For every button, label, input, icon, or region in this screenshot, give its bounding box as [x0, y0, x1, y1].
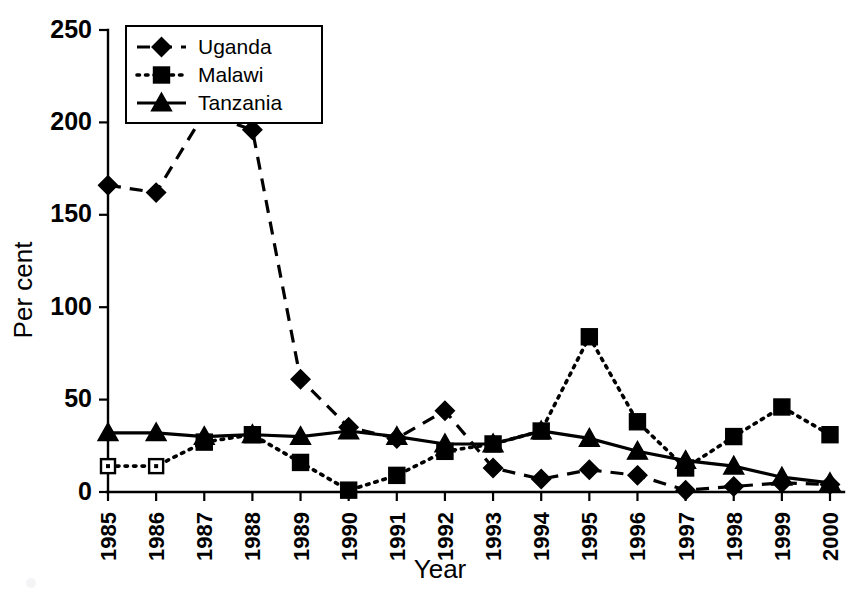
- y-tick-label: 50: [64, 384, 92, 412]
- legend-label: Malawi: [198, 63, 263, 86]
- data-point: [99, 176, 118, 195]
- data-point: [389, 467, 405, 483]
- x-tick-label: 1994: [529, 511, 554, 561]
- data-point: [291, 370, 310, 389]
- x-tick-label: 1998: [722, 512, 747, 561]
- x-tick-label: 1995: [577, 512, 602, 561]
- data-point: [147, 183, 166, 202]
- x-tick-label: 1999: [770, 512, 795, 561]
- data-point: [581, 329, 597, 345]
- x-tick-label: 1986: [144, 512, 169, 561]
- x-tick-label: 1997: [674, 512, 699, 561]
- x-tick-label: 1988: [240, 512, 265, 561]
- x-tick-label: 1993: [481, 512, 506, 561]
- y-tick-label: 100: [50, 292, 92, 320]
- x-tick-label: 1987: [192, 512, 217, 561]
- x-tick-label: 1990: [337, 512, 362, 561]
- y-axis-ticks: [99, 30, 108, 492]
- x-tick-label: 1985: [96, 512, 121, 561]
- x-axis-tick-labels: 1985198619871988198919901991199219931994…: [96, 511, 843, 561]
- chart-legend: UgandaMalawiTanzania: [126, 26, 322, 123]
- scan-artifact: [26, 578, 36, 588]
- data-point: [822, 427, 838, 443]
- x-axis-ticks: [108, 492, 830, 501]
- y-axis-tick-labels: 050100150200250: [50, 15, 92, 505]
- data-point: [628, 466, 647, 485]
- x-tick-label: 1991: [385, 512, 410, 561]
- x-tick-label: 1996: [625, 512, 650, 561]
- data-point-center: [154, 464, 158, 468]
- data-point: [532, 470, 551, 489]
- data-point: [580, 460, 599, 479]
- data-series-layer: [98, 104, 840, 500]
- legend-label: Tanzania: [198, 91, 282, 114]
- data-point: [341, 482, 357, 498]
- y-tick-label: 250: [50, 15, 92, 43]
- data-point-center: [106, 464, 110, 468]
- data-point: [676, 481, 695, 500]
- x-tick-label: 1989: [289, 512, 314, 561]
- x-tick-label: 2000: [818, 512, 843, 561]
- legend-marker-sample: [154, 67, 170, 83]
- y-tick-label: 200: [50, 107, 92, 135]
- data-point: [726, 429, 742, 445]
- data-point: [629, 414, 645, 430]
- chart-container: 050100150200250 198519861987198819891990…: [0, 0, 855, 607]
- line-chart: 050100150200250 198519861987198819891990…: [0, 0, 855, 607]
- y-axis-title: Per cent: [8, 241, 38, 339]
- y-tick-label: 0: [78, 477, 92, 505]
- x-axis-title: Year: [414, 554, 467, 584]
- legend-label: Uganda: [198, 35, 272, 58]
- y-tick-label: 150: [50, 199, 92, 227]
- data-point: [774, 399, 790, 415]
- data-point: [293, 454, 309, 470]
